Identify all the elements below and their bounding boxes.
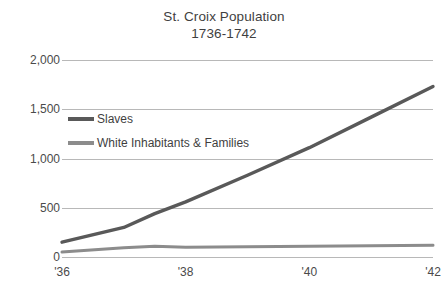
y-tick-label: 500 (0, 202, 60, 214)
chart-title-line-1: St. Croix Population (0, 8, 448, 25)
series-lines (62, 60, 433, 257)
x-tick-label: '40 (286, 266, 332, 278)
legend-entry-slaves: Slaves (68, 112, 133, 126)
legend-swatch-white-inhabitants (68, 141, 94, 145)
legend-swatch-slaves (68, 117, 94, 121)
y-tick-label: 2,000 (0, 54, 60, 66)
plot-area (62, 60, 433, 257)
y-tick-label: 0 (0, 251, 60, 263)
chart-title: St. Croix Population 1736-1742 (0, 8, 448, 42)
x-tick-label: '36 (39, 266, 85, 278)
series-line-slaves (62, 87, 433, 243)
y-tick-label: 1,500 (0, 103, 60, 115)
axis-baseline (62, 257, 433, 258)
x-tick-label: '38 (163, 266, 209, 278)
legend-entry-white-inhabitants: White Inhabitants & Families (68, 136, 249, 150)
chart-title-line-2: 1736-1742 (0, 25, 448, 42)
legend-label-slaves: Slaves (97, 113, 133, 125)
population-line-chart: St. Croix Population 1736-1742 2,0001,50… (0, 0, 448, 306)
legend-label-white-inhabitants: White Inhabitants & Families (97, 137, 249, 149)
x-tick-label: '42 (410, 266, 448, 278)
series-line-white-inhabitants-families (62, 245, 433, 252)
y-tick-label: 1,000 (0, 153, 60, 165)
